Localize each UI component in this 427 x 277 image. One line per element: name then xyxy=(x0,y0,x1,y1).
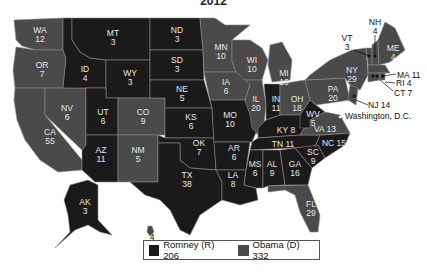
label-GA: GA16 xyxy=(289,159,302,178)
state-MA[interactable] xyxy=(368,65,390,73)
callout-VT: VT3 xyxy=(342,33,353,52)
label-KY: KY 8 xyxy=(277,125,296,135)
label-NC: NC 15 xyxy=(322,138,346,148)
callout-NJ: NJ 14 xyxy=(368,100,390,110)
label-MI: MI16 xyxy=(279,68,289,87)
label-FL: FL29 xyxy=(306,199,316,218)
obama-swatch-icon xyxy=(238,245,248,256)
label-IN: IN11 xyxy=(272,94,281,113)
legend-obama-label: Obama (D) 332 xyxy=(253,239,313,261)
label-WI: WI10 xyxy=(247,55,257,74)
label-VA: VA 13 xyxy=(314,124,336,134)
us-electoral-map: WA12 OR7 CA55 NV6 ID4 MT3 WY3 UT6 AZ11 C… xyxy=(0,0,427,277)
callout-NH: NH4 xyxy=(369,17,381,36)
legend-item-obama: Obama (D) 332 xyxy=(233,239,313,261)
callout-DC: Washington, D.C. xyxy=(345,111,411,121)
label-CA: CA55 xyxy=(44,127,56,146)
legend: Romney (R) 206 Obama (D) 332 xyxy=(143,240,320,260)
label-IL: IL20 xyxy=(251,94,261,113)
callout-CT: CT 7 xyxy=(394,88,413,98)
legend-romney-label: Romney (R) 206 xyxy=(163,239,227,261)
state-CT[interactable] xyxy=(368,73,380,82)
label-OH: OH18 xyxy=(291,94,304,113)
label-PA: PA20 xyxy=(328,84,339,103)
romney-swatch-icon xyxy=(149,245,159,256)
label-TN: TN 11 xyxy=(272,139,295,149)
legend-item-romney: Romney (R) 206 xyxy=(144,239,227,261)
callout-RI: RI 4 xyxy=(396,78,412,88)
label-MN: MN10 xyxy=(214,42,227,61)
label-TX: TX38 xyxy=(182,170,193,189)
label-NY: NY29 xyxy=(346,65,358,84)
label-AZ: AZ11 xyxy=(96,145,107,164)
